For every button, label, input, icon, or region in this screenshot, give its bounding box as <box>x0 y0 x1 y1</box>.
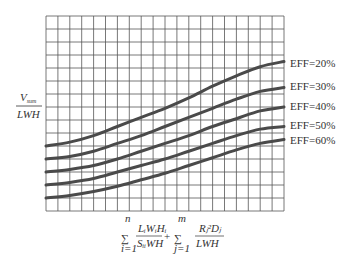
legend-label: EFF=30% <box>290 80 335 92</box>
x-axis-label: ∑ n i=1 LᵢWᵢHᵢ SᵢᵢWH + ∑ m j=1 Rⱼ²Dⱼ LWH <box>121 212 224 254</box>
plus-operator: + <box>164 230 170 242</box>
sum-2-lower: j=1 <box>172 242 190 254</box>
legend: EFF=20%EFF=30%EFF=40%EFF=50%EFF=60% <box>290 57 335 146</box>
legend-label: EFF=60% <box>290 134 335 146</box>
sum-2-upper: m <box>178 212 186 224</box>
term-1-numerator: LᵢWᵢHᵢ <box>137 222 167 234</box>
term-2-numerator: Rⱼ²Dⱼ <box>198 222 222 234</box>
term-2-denominator: LWH <box>195 237 220 249</box>
y-label-numerator: Vsum <box>20 91 37 104</box>
y-axis-label: Vsum LWH <box>16 91 42 120</box>
y-label-denominator: LWH <box>16 108 41 120</box>
legend-label: EFF=20% <box>290 57 335 69</box>
chart: EFF=20%EFF=30%EFF=40%EFF=50%EFF=60% Vsum… <box>0 0 351 261</box>
term-1-denominator: SᵢᵢWH <box>137 237 164 249</box>
legend-label: EFF=40% <box>290 100 335 112</box>
legend-label: EFF=50% <box>290 119 335 131</box>
sum-1-lower: i=1 <box>121 242 137 254</box>
sum-1-upper: n <box>125 212 131 224</box>
